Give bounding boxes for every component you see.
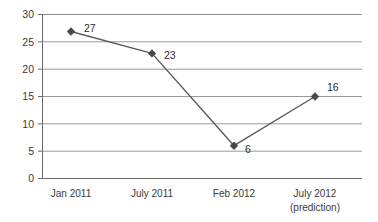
data-point-label-0: 27 [84, 22, 96, 34]
y-tick-label-25: 25 [22, 36, 34, 48]
data-series-line [71, 32, 315, 146]
y-tick-label-0: 0 [28, 172, 34, 184]
y-tick-label-10: 10 [22, 118, 34, 130]
data-point-label-1: 23 [164, 49, 176, 61]
x-category-label-0: Jan 2011 [51, 188, 92, 199]
y-tick-label-30: 30 [22, 8, 34, 20]
chart-canvas: 30 25 20 15 10 5 0 27 23 6 16 Jan 2011 J… [0, 0, 378, 222]
data-point-marker-3 [311, 92, 319, 100]
y-tick-label-20: 20 [22, 63, 34, 75]
line-chart: 30 25 20 15 10 5 0 27 23 6 16 Jan 2011 J… [0, 0, 378, 222]
data-point-label-2: 6 [245, 143, 251, 155]
y-tick-label-5: 5 [28, 145, 34, 157]
x-category-label-3: July 2012 [294, 188, 337, 199]
y-tick-marks [38, 15, 42, 179]
data-point-markers [67, 27, 319, 150]
data-point-label-3: 16 [327, 81, 339, 93]
x-category-label-1: July 2011 [131, 188, 174, 199]
x-category-label-2: Feb 2012 [213, 188, 256, 199]
y-tick-label-15: 15 [22, 90, 34, 102]
data-point-marker-0 [67, 27, 75, 35]
gridlines [42, 15, 362, 152]
x-category-label-3-sub: (prediction) [290, 202, 340, 213]
